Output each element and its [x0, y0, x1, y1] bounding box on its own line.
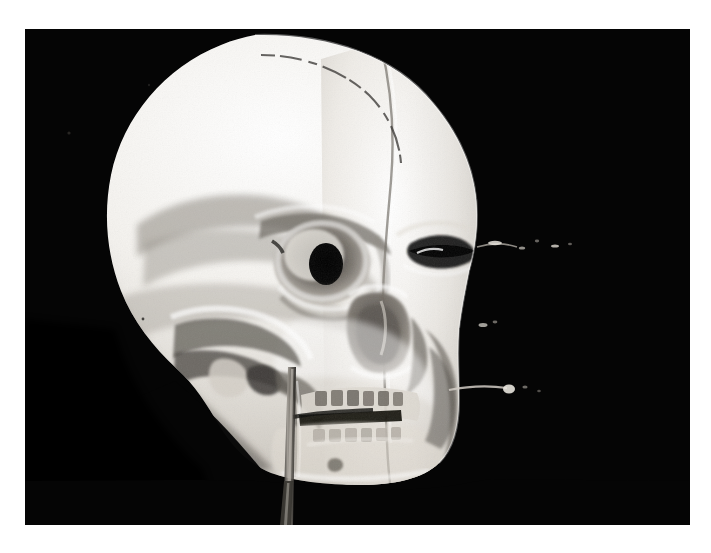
debris-speck-b: [519, 246, 525, 249]
skull-photograph-canvas: [25, 29, 690, 525]
debris-speck-c: [535, 240, 539, 243]
wire-whisker-bead: [503, 385, 515, 394]
photograph: [25, 29, 690, 525]
dust-mote-b: [148, 84, 150, 86]
debris-speck-e: [568, 243, 572, 245]
dust-mote-a: [67, 131, 70, 134]
debris-speck-a: [488, 241, 502, 245]
dust-mote-c: [142, 318, 145, 321]
wire-whisker-dust: [537, 390, 541, 392]
page-root: [0, 0, 711, 553]
wire-whisker-tip: [522, 386, 527, 389]
debris-speck-g: [493, 321, 498, 324]
debris-speck-d: [551, 244, 559, 247]
debris-speck-f: [479, 323, 488, 327]
